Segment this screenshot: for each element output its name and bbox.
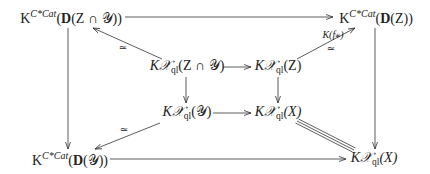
equals-diag-br-1 xyxy=(297,121,354,150)
node-subscript: ql xyxy=(276,111,283,121)
node-argument: (𝒴) xyxy=(191,104,211,119)
node-prefix: K𝒳 xyxy=(255,104,276,119)
node-prefix: K𝒳 xyxy=(255,58,276,73)
node-outer-bottom-left: KC*Cat(D(𝒴)) xyxy=(32,151,108,168)
label-k-fstar: K(f⁎) xyxy=(322,29,343,40)
node-bold-d: D xyxy=(380,11,390,26)
node-superscript: C*Cat xyxy=(42,150,68,161)
node-prefix: K xyxy=(339,11,349,26)
node-argument: (𝒴)) xyxy=(83,153,108,168)
node-subscript: ql xyxy=(276,65,283,75)
node-superscript: C*Cat xyxy=(30,8,56,19)
label-iso-top-right: ≃ xyxy=(327,43,335,54)
node-bold-d: D xyxy=(73,153,83,168)
commutative-diagram: KC*Cat(D(Z ∩ 𝒴)) KC*Cat(D(Z)) KC*Cat(D(𝒴… xyxy=(0,0,430,174)
node-prefix: K xyxy=(20,11,30,26)
node-argument: (X) xyxy=(283,104,301,119)
node-argument: (Z ∩ 𝒴)) xyxy=(71,11,122,26)
label-iso-bottom-left: ≃ xyxy=(120,124,128,135)
node-prefix: K𝒳 xyxy=(351,150,372,165)
node-argument: (X) xyxy=(379,150,397,165)
node-argument: (Z ∩ 𝒴) xyxy=(178,58,224,73)
node-subscript: ql xyxy=(171,65,178,75)
node-outer-bottom-right: K𝒳ql(X) xyxy=(351,151,398,168)
node-prefix: K𝒳 xyxy=(150,58,171,73)
label-iso-top-left: ≃ xyxy=(119,42,127,53)
node-bold-d: D xyxy=(61,11,71,26)
node-prefix: K xyxy=(32,153,42,168)
node-subscript: ql xyxy=(184,111,191,121)
arrow-diag-tl xyxy=(93,28,162,59)
node-inner-bottom-left: K𝒳ql(𝒴) xyxy=(162,105,211,122)
equals-diag-br-2 xyxy=(299,119,356,148)
node-inner-top-left: K𝒳ql(Z ∩ 𝒴) xyxy=(150,59,225,76)
node-argument: (Z) xyxy=(283,58,301,73)
node-subscript: ql xyxy=(372,157,379,167)
node-superscript: C*Cat xyxy=(349,8,375,19)
equals-diag-br-3 xyxy=(296,123,353,152)
node-inner-bottom-right: K𝒳ql(X) xyxy=(255,105,302,122)
diagram-arrows xyxy=(0,0,430,174)
node-outer-top-left: KC*Cat(D(Z ∩ 𝒴)) xyxy=(20,9,122,26)
node-prefix: K𝒳 xyxy=(162,104,183,119)
node-argument: (Z)) xyxy=(390,11,413,26)
node-inner-top-right: K𝒳ql(Z) xyxy=(255,59,302,76)
node-outer-top-right: KC*Cat(D(Z)) xyxy=(339,9,413,26)
